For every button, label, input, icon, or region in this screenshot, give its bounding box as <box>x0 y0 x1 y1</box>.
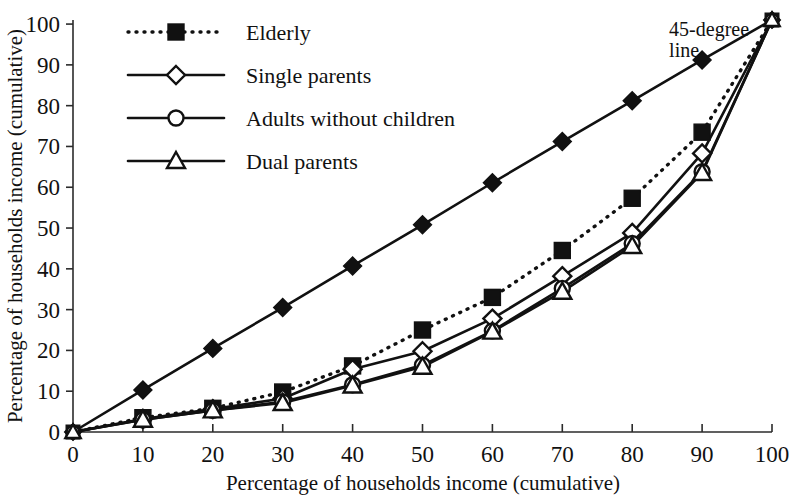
data-point-marker <box>274 299 292 317</box>
data-point-marker <box>168 24 184 40</box>
data-point-marker <box>483 174 501 192</box>
square-filled-marker <box>694 124 710 140</box>
diamond-filled-marker <box>414 216 432 234</box>
x-tick-label: 90 <box>691 442 714 467</box>
x-tick-label: 40 <box>341 442 364 467</box>
diamond-filled-marker <box>274 299 292 317</box>
data-point-marker <box>134 381 152 399</box>
annotation-text: line <box>669 39 699 61</box>
data-point-marker <box>204 339 222 357</box>
legend-item-elderly: Elderly <box>128 20 311 45</box>
data-point-marker <box>167 66 185 84</box>
square-filled-marker <box>415 322 431 338</box>
legend-item-label: Dual parents <box>246 149 358 174</box>
legend-item-label: Elderly <box>246 20 311 45</box>
square-filled-marker <box>554 242 570 258</box>
x-axis-tick-labels: 0102030405060708090100 <box>67 442 789 467</box>
diamond-filled-marker <box>623 92 641 110</box>
circle-open-marker <box>169 111 184 126</box>
diamond-filled-marker <box>344 257 362 275</box>
data-point-marker <box>553 133 571 151</box>
square-filled-marker <box>484 289 500 305</box>
x-tick-label: 10 <box>131 442 154 467</box>
data-point-marker <box>414 216 432 234</box>
y-axis-title: Percentage of households income (cumulat… <box>3 29 27 423</box>
x-tick-label: 0 <box>67 442 79 467</box>
data-point-marker <box>694 124 710 140</box>
y-axis-ticks <box>66 24 73 432</box>
x-tick-label: 70 <box>551 442 574 467</box>
x-axis-title: Percentage of households income (cumulat… <box>226 471 620 495</box>
y-axis-tick-labels: 0102030405060708090100 <box>26 12 61 445</box>
data-point-marker <box>415 322 431 338</box>
data-point-marker <box>554 242 570 258</box>
diamond-filled-marker <box>483 174 501 192</box>
y-tick-label: 40 <box>37 257 60 282</box>
legend-item-dual-parents: Dual parents <box>128 149 358 174</box>
data-point-marker <box>623 92 641 110</box>
diamond-open-marker <box>167 66 185 84</box>
x-tick-label: 50 <box>411 442 434 467</box>
legend-item-label: Adults without children <box>246 106 455 131</box>
y-tick-label: 80 <box>37 94 60 119</box>
y-tick-label: 10 <box>37 379 60 404</box>
x-tick-label: 20 <box>201 442 224 467</box>
diamond-filled-marker <box>134 381 152 399</box>
legend-item-adults-without-children: Adults without children <box>128 106 455 131</box>
square-filled-marker <box>168 24 184 40</box>
y-tick-label: 0 <box>49 420 61 445</box>
diamond-filled-marker <box>204 339 222 357</box>
data-point-marker <box>169 111 184 126</box>
y-tick-label: 50 <box>37 216 60 241</box>
x-tick-label: 100 <box>755 442 790 467</box>
data-point-marker <box>624 190 640 206</box>
y-tick-label: 70 <box>37 134 60 159</box>
x-tick-label: 60 <box>481 442 504 467</box>
chart-legend: ElderlySingle parentsAdults without chil… <box>128 20 455 174</box>
y-tick-label: 90 <box>37 53 60 78</box>
annotation-layer: 45-degreeline <box>669 18 749 60</box>
x-tick-label: 80 <box>621 442 644 467</box>
legend-item-single-parents: Single parents <box>128 63 371 88</box>
x-tick-label: 30 <box>271 442 294 467</box>
data-point-marker <box>484 289 500 305</box>
square-filled-marker <box>624 190 640 206</box>
data-point-marker <box>344 257 362 275</box>
chart-container: 0102030405060708090100 01020304050607080… <box>0 0 792 499</box>
legend-item-label: Single parents <box>246 63 371 88</box>
y-tick-label: 100 <box>26 12 61 37</box>
y-tick-label: 60 <box>37 175 60 200</box>
lorenz-curve-chart: 0102030405060708090100 01020304050607080… <box>0 0 792 499</box>
diamond-filled-marker <box>553 133 571 151</box>
y-tick-label: 30 <box>37 298 60 323</box>
y-tick-label: 20 <box>37 338 60 363</box>
x-axis-ticks <box>73 424 772 432</box>
